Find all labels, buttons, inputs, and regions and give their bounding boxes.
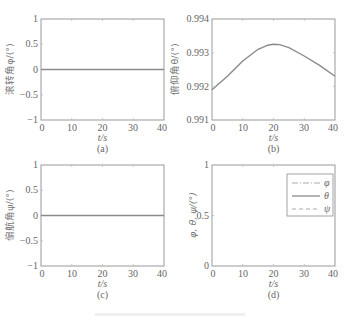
- ytick: 0.992: [187, 81, 210, 92]
- xtick: 30: [299, 122, 309, 133]
- xtick: 0: [211, 268, 216, 279]
- ytick: 0.993: [187, 47, 210, 58]
- ytick: 0: [33, 210, 38, 221]
- xtick: 40: [328, 268, 338, 279]
- ytick: 0.5: [197, 210, 210, 221]
- figure-canvas: 1 0.5 0 −0.5 −1 0 10 20 30 40 t/s (a) 滚转…: [0, 0, 345, 316]
- xtick: 30: [128, 122, 138, 133]
- legend: φ θ ψ: [287, 174, 333, 216]
- x-axis-label: t/s: [98, 278, 108, 289]
- y-axis-label: φ, θ, ψ/(°): [187, 192, 198, 238]
- legend-phi-label: φ: [324, 177, 330, 188]
- ytick: 0: [33, 64, 38, 75]
- xtick: 30: [128, 268, 138, 279]
- ytick: 0.5: [26, 38, 39, 49]
- y-axis-label: 俯仰角θ/(°): [169, 43, 180, 94]
- xtick: 10: [67, 268, 77, 279]
- ytick: 0.5: [26, 184, 39, 195]
- y-axis-label: 偏航角ψ/(°): [4, 189, 15, 241]
- xtick: 0: [211, 122, 216, 133]
- x-axis-label: t/s: [269, 132, 279, 143]
- panel-c: 1 0.5 0 −0.5 −1 0 10 20 30 40 t/s (c) 偏航…: [4, 159, 167, 301]
- x-axis-label: t/s: [269, 278, 279, 289]
- series-theta-line: [212, 44, 335, 89]
- xtick: 10: [67, 122, 77, 133]
- panel-a: 1 0.5 0 −0.5 −1 0 10 20 30 40 t/s (a) 滚转…: [4, 13, 167, 155]
- ytick: 0.994: [187, 13, 210, 24]
- panel-label: (b): [268, 143, 280, 155]
- legend-psi-label: ψ: [324, 203, 331, 214]
- ytick: −1: [27, 260, 38, 271]
- panel-d: φ θ ψ 1 0.5 0 0 10 20 30 40 t/s (d) φ, θ…: [187, 159, 338, 301]
- xtick: 0: [40, 122, 45, 133]
- ytick: 0.991: [187, 114, 210, 125]
- xtick: 10: [238, 122, 248, 133]
- xtick: 0: [40, 268, 45, 279]
- ytick: −0.5: [20, 235, 38, 246]
- xtick: 10: [238, 268, 248, 279]
- panel-label: (c): [97, 289, 108, 301]
- xtick: 30: [299, 268, 309, 279]
- y-axis-label: 滚转角φ/(°): [4, 43, 15, 95]
- legend-theta-label: θ: [324, 190, 329, 201]
- x-axis-label: t/s: [98, 132, 108, 143]
- ytick: 1: [204, 159, 209, 170]
- panel-b: 0.994 0.993 0.992 0.991 0 10 20 30 40 t/…: [169, 13, 338, 155]
- panel-label: (a): [97, 143, 108, 155]
- ytick: −0.5: [20, 89, 38, 100]
- plot-area-b: [212, 19, 335, 120]
- xtick: 40: [328, 122, 338, 133]
- xtick: 40: [157, 268, 167, 279]
- ytick: 1: [33, 159, 38, 170]
- ytick: 0: [204, 260, 209, 271]
- ytick: 1: [33, 13, 38, 24]
- panel-label: (d): [268, 289, 280, 301]
- xtick: 40: [157, 122, 167, 133]
- ytick: −1: [27, 114, 38, 125]
